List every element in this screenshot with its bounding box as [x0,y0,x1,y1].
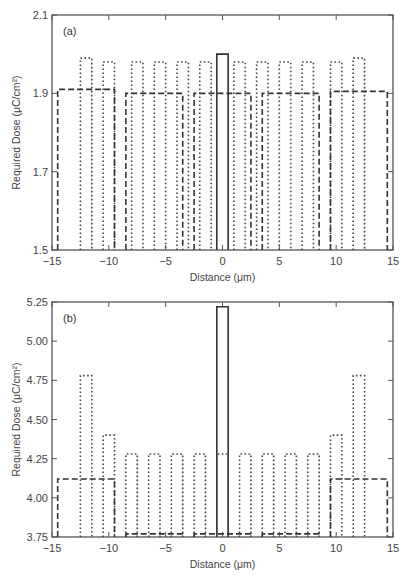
y-tick-label: 4.75 [27,374,48,386]
x-tick-label: 0 [219,255,225,267]
x-tick-label: 5 [276,542,282,554]
y-tick-label: 5.25 [27,296,48,308]
pulse-dotted [194,454,205,537]
y-tick-label: 1.9 [33,87,48,99]
x-tick-label: −5 [159,542,172,554]
pulse-dotted [217,454,228,537]
pulse-dotted [240,454,251,537]
series-solid [217,54,228,250]
pulse-dashed [330,479,387,537]
y-tick-label: 3.75 [27,531,48,543]
pulse-dotted [80,376,91,537]
pulse-dotted [279,62,290,250]
pulse-dotted [308,454,319,537]
panel-label: (b) [63,312,76,324]
x-tick-label: 15 [387,255,399,267]
x-axis-title: Distance (μm) [190,558,256,570]
x-tick-label: 5 [276,255,282,267]
pulse-dotted [200,62,211,250]
pulse-dotted [330,435,341,537]
series-dotted [80,58,364,250]
y-tick-label: 4.00 [27,492,48,504]
x-tick-label: −10 [99,542,118,554]
x-tick-label: 0 [219,542,225,554]
x-tick-label: −15 [43,542,62,554]
x-tick-label: 10 [330,542,342,554]
pulse-dotted [171,454,182,537]
series-dashed [58,89,388,250]
pulse-dotted [154,62,165,250]
series-dotted [80,376,364,537]
pulse-dotted [302,62,313,250]
panel-label: (a) [63,25,76,37]
chart-panel-a: −15−10−50510151.51.71.92.1(a)Distance (μ… [10,9,399,283]
pulse-dotted [353,376,364,537]
pulse-dashed [58,89,115,250]
x-tick-label: −15 [43,255,62,267]
chart-panel-b: −15−10−50510153.754.004.254.504.755.005.… [10,296,399,570]
y-tick-label: 4.50 [27,414,48,426]
x-tick-label: 15 [387,542,399,554]
pulse-dotted [149,454,160,537]
pulse-dashed [330,91,387,250]
pulse-solid [217,54,228,250]
pulse-dotted [262,454,273,537]
x-tick-label: 10 [330,255,342,267]
pulse-dashed [58,479,115,537]
figure: −15−10−50510151.51.71.92.1(a)Distance (μ… [0,0,410,576]
y-tick-label: 5.00 [27,335,48,347]
pulse-dotted [330,62,341,250]
series-solid [217,307,228,537]
pulse-dotted [80,58,91,250]
x-axis-title: Distance (μm) [190,271,256,283]
pulse-solid [217,307,228,537]
pulse-dotted [132,62,143,250]
plot-frame [52,302,393,537]
x-tick-label: −5 [159,255,172,267]
y-axis-title: Required Dose (μC/cm²) [10,76,22,190]
pulse-dotted [285,454,296,537]
pulse-dashed [194,93,251,250]
pulse-dotted [126,454,137,537]
y-tick-label: 1.7 [33,166,48,178]
series-dashed [58,479,388,537]
y-tick-label: 4.25 [27,453,48,465]
pulse-dotted [234,62,245,250]
y-tick-label: 1.5 [33,244,48,256]
pulse-dotted [103,435,114,537]
pulse-dotted [177,62,188,250]
y-axis-title: Required Dose (μC/cm²) [10,363,22,477]
y-tick-label: 2.1 [33,9,48,21]
x-tick-label: −10 [99,255,118,267]
pulse-dotted [353,58,364,250]
